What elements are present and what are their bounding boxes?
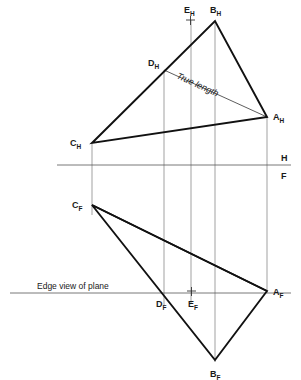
point-label-e-f: EF [188,299,198,311]
front-view-group [92,205,267,360]
point-label-d-h: DH [148,58,160,70]
reference-label-f: F [281,171,287,181]
e-f-cross-mark [187,287,196,296]
point-label-c-h: CH [70,138,82,150]
point-label-d-f: DF [156,299,167,311]
point-label-b-h: BH [210,5,222,17]
hf-labels: H F [281,153,288,181]
geometry-figure: AH BH CH DH EH True length AF BF [0,0,301,380]
reference-label-h: H [281,153,288,163]
front-view-edge-ca [92,205,267,291]
point-label-b-f: BF [210,369,221,380]
point-label-e-h: EH [184,5,195,17]
point-label-a-h: AH [273,112,285,124]
triangle-top-view [92,21,267,143]
true-length-label: True length [175,71,220,99]
e-h-cross-mark [186,16,195,25]
edge-view-of-plane-label: Edge view of plane [37,281,109,291]
top-view-labels: AH BH CH DH EH True length [70,5,285,150]
triangle-front-view [92,205,267,360]
point-label-a-f: AF [273,287,284,299]
point-label-c-f: CF [72,200,83,212]
geometry-canvas: AH BH CH DH EH True length AF BF [0,0,301,380]
